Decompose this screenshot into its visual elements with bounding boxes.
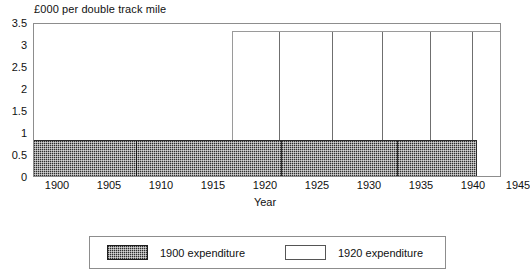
x-axis-tick: 1930 bbox=[357, 179, 381, 191]
y-axis-tick: 1.5 bbox=[12, 105, 27, 117]
y-axis-tick: 3 bbox=[21, 39, 27, 51]
x-axis-tick: 1935 bbox=[409, 179, 433, 191]
legend-item-1900-expenditure: 1900 expenditure bbox=[107, 244, 245, 261]
y-axis-tick: 0.5 bbox=[12, 149, 27, 161]
legend-label: 1920 expenditure bbox=[338, 247, 423, 259]
chart-legend: 1900 expenditure 1920 expenditure bbox=[89, 236, 446, 269]
x-axis-tick: 1920 bbox=[253, 179, 277, 191]
series-1900-segment-divider bbox=[397, 141, 398, 176]
y-axis-tick: 2 bbox=[21, 83, 27, 95]
legend-label: 1900 expenditure bbox=[160, 247, 245, 259]
series-1900-expenditure-area bbox=[34, 140, 477, 176]
series-1900-segment-divider bbox=[281, 141, 282, 176]
legend-item-1920-expenditure: 1920 expenditure bbox=[285, 244, 423, 261]
series-1900-segment-divider bbox=[136, 141, 137, 176]
x-axis-tick: 1905 bbox=[97, 179, 121, 191]
x-axis-title: Year bbox=[0, 196, 530, 208]
y-axis-tick: 1 bbox=[21, 127, 27, 139]
x-axis-tick: 1910 bbox=[149, 179, 173, 191]
x-axis-tick: 1900 bbox=[45, 179, 69, 191]
x-axis-tick: 1915 bbox=[201, 179, 225, 191]
y-axis: 3.5 3 2.5 2 1.5 1 0.5 0 bbox=[0, 23, 31, 177]
plot-inner bbox=[34, 24, 500, 176]
chart-title: £000 per double track mile bbox=[34, 3, 166, 15]
x-axis: 1900 1905 1910 1915 1920 1925 1930 1935 … bbox=[33, 179, 501, 195]
x-axis-tick: 1945 bbox=[506, 179, 530, 191]
x-axis-tick: 1940 bbox=[461, 179, 485, 191]
y-axis-tick: 3.5 bbox=[12, 17, 27, 29]
plot-area bbox=[33, 23, 501, 177]
y-axis-tick: 2.5 bbox=[12, 61, 27, 73]
legend-swatch-white-icon bbox=[285, 245, 326, 260]
legend-swatch-dark-icon bbox=[107, 245, 148, 260]
x-axis-tick: 1925 bbox=[305, 179, 329, 191]
y-axis-tick: 0 bbox=[21, 171, 27, 183]
